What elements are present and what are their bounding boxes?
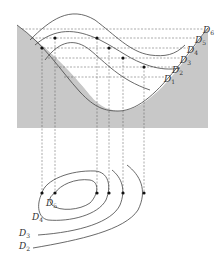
label-right-d6: D6 (203, 26, 214, 36)
label-right-d1: D1 (164, 75, 175, 85)
diagram-canvas (0, 0, 221, 265)
label-right-d3: D3 (180, 56, 191, 66)
label-bottom-d3: D3 (19, 229, 30, 239)
label-right-d4: D4 (187, 46, 198, 56)
label-bottom-d2: D2 (19, 242, 30, 252)
label-bottom-d5: D5 (46, 199, 57, 209)
label-right-d5: D5 (195, 36, 206, 46)
label-bottom-d4: D4 (32, 213, 43, 223)
